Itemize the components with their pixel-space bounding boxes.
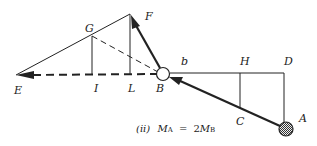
arrow-ab bbox=[178, 80, 280, 126]
arrowhead-e-icon bbox=[16, 71, 34, 79]
label-h: H bbox=[239, 55, 250, 68]
caption-prefix: (ii) bbox=[136, 123, 150, 134]
line-ef bbox=[16, 14, 130, 75]
caption-rhs-sub: B bbox=[210, 126, 215, 134]
caption: (ii) MA = 2MB bbox=[136, 123, 215, 134]
mass-b-circle bbox=[157, 68, 170, 81]
label-l: L bbox=[127, 82, 135, 95]
caption-lhs-sub: A bbox=[167, 126, 174, 134]
label-d: D bbox=[283, 55, 293, 68]
caption-equals: = bbox=[179, 123, 187, 134]
dashed-line-be bbox=[30, 74, 158, 75]
label-g: G bbox=[85, 22, 94, 35]
label-c: C bbox=[236, 115, 245, 128]
label-b-point: B bbox=[155, 82, 164, 95]
label-a: A bbox=[298, 112, 307, 125]
arrowhead-f-icon bbox=[131, 15, 140, 29]
label-e: E bbox=[13, 84, 22, 97]
mass-a-circle bbox=[279, 122, 293, 136]
dashed-line-gb bbox=[92, 36, 158, 72]
label-b-lower: b bbox=[181, 55, 188, 68]
label-i: I bbox=[93, 82, 99, 95]
caption-rhs-var: M bbox=[199, 123, 211, 134]
label-f: F bbox=[144, 10, 153, 23]
caption-lhs-var: M bbox=[156, 123, 168, 134]
force-diagram: F G E I L B b H D C A (ii) MA = 2MB bbox=[0, 0, 317, 146]
arrowhead-b-icon bbox=[169, 77, 183, 85]
